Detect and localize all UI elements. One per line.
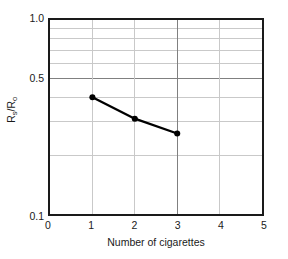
data-point-marker [89, 94, 95, 100]
x-tick-label-3: 3 [175, 220, 181, 231]
y-axis-title-mid: /R [5, 101, 17, 112]
x-tick-label-0: 0 [45, 220, 51, 231]
y-axis-title-pre: R [5, 115, 17, 123]
x-tick-label-2: 2 [131, 220, 137, 231]
y-tick-label-0.1: 0.1 [29, 211, 44, 222]
x-tick-label-4: 4 [218, 220, 224, 231]
y-axis-title: Rs/Ro [6, 70, 18, 150]
chart-figure: 1.0 0.5 0.1 012345 Number of cigarettes … [0, 0, 288, 259]
data-series-rs-ro [50, 20, 262, 214]
x-axis-title: Number of cigarettes [48, 237, 264, 249]
x-tick-label-5: 5 [261, 220, 267, 231]
data-point-marker [132, 116, 138, 122]
y-tick-label-0.5: 0.5 [29, 73, 44, 84]
data-line [92, 97, 177, 133]
x-tick-label-1: 1 [88, 220, 94, 231]
x-axis-tick-labels: 012345 [48, 220, 264, 234]
y-tick-label-1.0: 1.0 [29, 13, 44, 24]
data-point-marker [174, 130, 180, 136]
y-axis-title-sub-s: s [10, 111, 19, 115]
plot-area [48, 18, 264, 216]
y-axis-title-sub-o: o [10, 97, 19, 101]
